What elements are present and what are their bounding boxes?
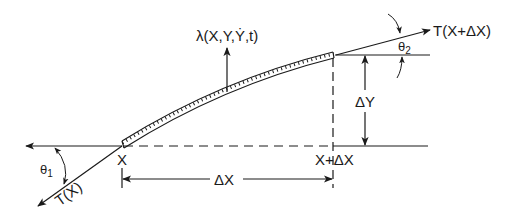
string-segment: [122, 52, 334, 148]
theta2-label: θ2: [398, 40, 411, 56]
delta-x-label: ΔX: [214, 172, 234, 187]
delta-y-label: ΔY: [355, 94, 375, 109]
theta2-subscript: 2: [405, 45, 411, 56]
x-right-label: X+ΔX: [315, 152, 354, 167]
theta1-label: θ1: [40, 163, 53, 179]
tension-right-arrow: [336, 30, 430, 55]
string-element-diagram: λ(X,Y,Ẏ,t) T(X+ΔX) θ2 ΔY X X+ΔX ΔX θ1 T(…: [0, 0, 509, 224]
theta1-angle-marker: [55, 148, 66, 184]
x-left-label: X: [117, 152, 127, 167]
tension-right-label: T(X+ΔX): [433, 23, 491, 38]
theta1-subscript: 1: [47, 168, 53, 179]
load-label: λ(X,Y,Ẏ,t): [196, 28, 258, 43]
